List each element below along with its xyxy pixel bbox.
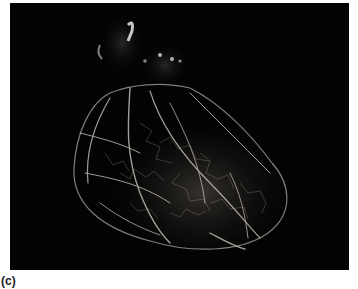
heart-illustration [10, 3, 349, 270]
panel-label: (c) [1, 274, 16, 288]
heart-vascular-image [10, 3, 349, 270]
